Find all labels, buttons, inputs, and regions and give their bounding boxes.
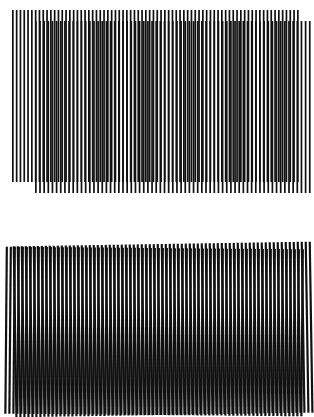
vertical-grating-moire bbox=[0, 0, 314, 200]
line-grating bbox=[35, 21, 311, 193]
moire-panel-bottom: Two line gratings rotated slightly relat… bbox=[0, 200, 314, 417]
moire-panel-top: Two vertical line gratings of slightly d… bbox=[0, 0, 314, 200]
rotated-grating-moire bbox=[0, 200, 314, 417]
